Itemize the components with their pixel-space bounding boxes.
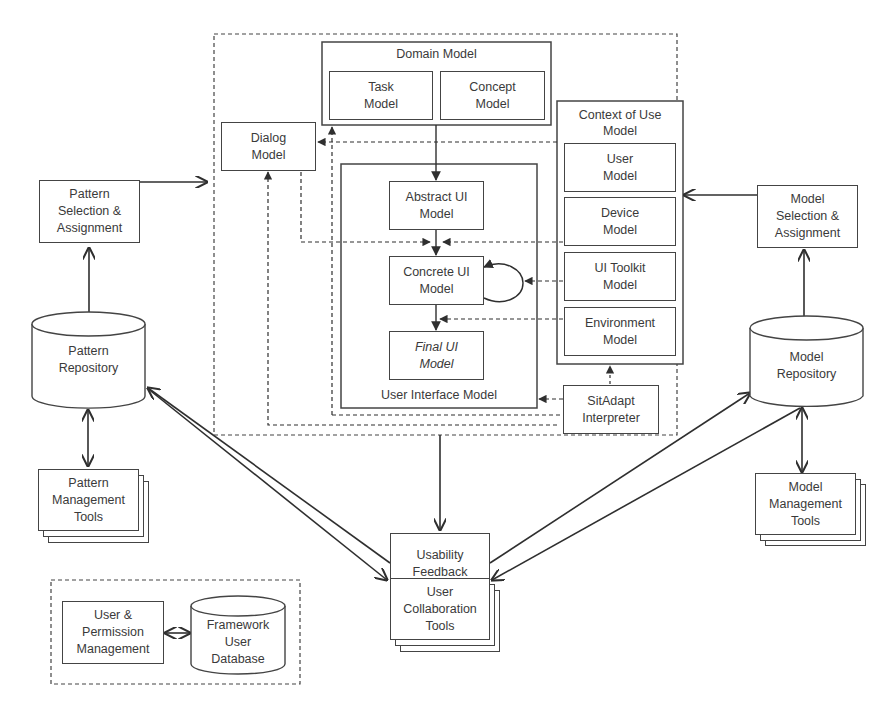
concept-model-box: Concept Model xyxy=(440,71,545,120)
architecture-diagram: Domain Model Task Model Concept Model Di… xyxy=(0,0,896,710)
user-collaboration-tools-box: User Collaboration Tools xyxy=(390,578,490,640)
final-ui-model-box: Final UI Model xyxy=(389,331,484,380)
ui-model-title: User Interface Model xyxy=(341,387,537,403)
abstract-ui-model-box: Abstract UI Model xyxy=(389,181,484,230)
sitadapt-interpreter-box: SitAdapt Interpreter xyxy=(563,385,659,434)
model-management-tools-box: Model Management Tools xyxy=(755,473,856,535)
context-of-use-title: Context of Use Model xyxy=(557,107,683,139)
device-model-box: Device Model xyxy=(564,197,676,246)
model-repository-label: Model Repository xyxy=(750,349,863,383)
dialog-model-box: Dialog Model xyxy=(221,122,316,171)
environment-model-box: Environment Model xyxy=(564,307,676,356)
pattern-repository-label: Pattern Repository xyxy=(32,343,145,377)
user-permission-box: User & Permission Management xyxy=(62,601,164,664)
framework-db-label: Framework User Database xyxy=(191,617,285,668)
model-selection-box: Model Selection & Assignment xyxy=(757,185,858,248)
pattern-selection-box: Pattern Selection & Assignment xyxy=(39,180,140,243)
concrete-ui-model-box: Concrete UI Model xyxy=(389,256,484,305)
task-model-box: Task Model xyxy=(329,71,433,120)
ui-toolkit-model-box: UI Toolkit Model xyxy=(564,252,676,301)
domain-model-title: Domain Model xyxy=(322,46,551,62)
pattern-management-tools-box: Pattern Management Tools xyxy=(38,469,139,531)
user-model-box: User Model xyxy=(564,143,676,192)
